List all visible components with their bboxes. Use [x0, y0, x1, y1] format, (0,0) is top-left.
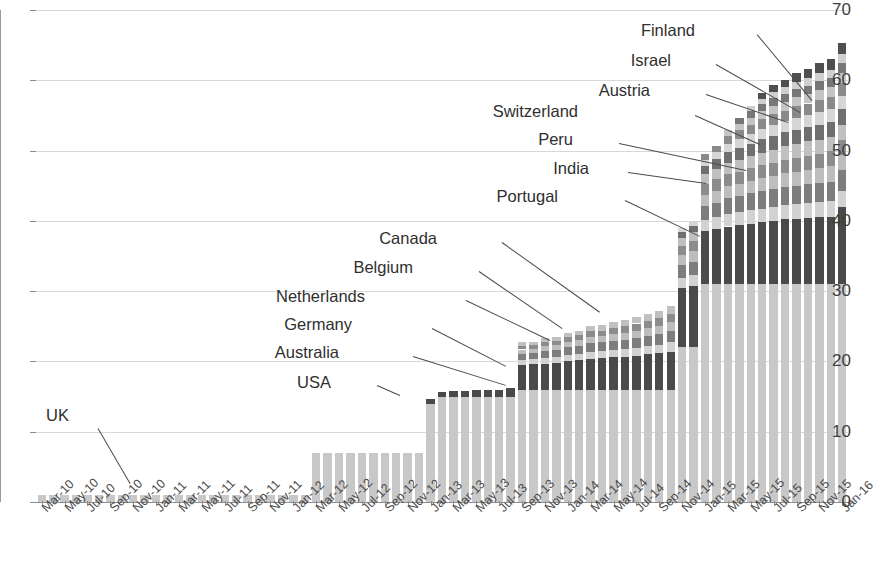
- y-tick-label: 70: [821, 0, 851, 20]
- bar-segment: [667, 352, 675, 390]
- bar-segment: [724, 144, 732, 152]
- y-tick-label: 20: [821, 351, 851, 371]
- bar-segment: [804, 218, 812, 284]
- bar-segment: [804, 115, 812, 127]
- bar-segment: [747, 156, 755, 168]
- bar-segment: [781, 80, 789, 88]
- bar-segment: [495, 390, 503, 397]
- callout-label: Finland: [641, 21, 695, 40]
- bar: [621, 320, 629, 502]
- bar-segment: [792, 219, 800, 284]
- bar-segment: [758, 93, 766, 99]
- bar-segment: [575, 360, 583, 390]
- bar-segment: [792, 130, 800, 145]
- bar-segment: [724, 198, 732, 213]
- bar: [632, 317, 640, 502]
- bar-segment: [838, 54, 846, 62]
- bar-segment: [758, 119, 766, 129]
- bar-segment: [792, 89, 800, 97]
- bar-segment: [552, 357, 560, 363]
- bar-segment: [598, 358, 606, 390]
- bar-segment: [529, 342, 537, 346]
- bar-segment: [769, 189, 777, 207]
- bar-segment: [804, 170, 812, 185]
- bar-segment: [712, 146, 720, 152]
- bar: [644, 314, 652, 502]
- bar-segment: [735, 118, 743, 124]
- bar-segment: [621, 333, 629, 340]
- bar: [655, 311, 663, 502]
- bar-segment: [758, 284, 766, 502]
- gridline: [36, 10, 848, 11]
- x-axis-labels: Mar-10May-10Jul-10Sep-10Nov-10Jan-11Mar-…: [36, 505, 848, 575]
- bar-segment: [781, 121, 789, 132]
- bar: [678, 228, 686, 502]
- bar-segment: [678, 288, 686, 348]
- bar: [575, 331, 583, 502]
- bar-segment: [827, 122, 835, 137]
- bar-segment: [552, 341, 560, 345]
- bar-segment: [598, 325, 606, 331]
- bar-segment: [701, 154, 709, 160]
- bar-segment: [529, 349, 537, 353]
- bar-segment: [701, 220, 709, 231]
- bar-segment: [815, 100, 823, 112]
- bar-segment: [781, 205, 789, 219]
- bar: [724, 130, 732, 502]
- bar-segment: [609, 328, 617, 334]
- bar-segment: [689, 221, 697, 226]
- bar-segment: [644, 336, 652, 346]
- bar-segment: [804, 141, 812, 155]
- bar-segment: [621, 340, 629, 349]
- y-tick-mark: [30, 10, 36, 11]
- bar-segment: [769, 85, 777, 92]
- bar-segment: [792, 144, 800, 157]
- bar-segment: [529, 390, 537, 502]
- bar-segment: [758, 191, 766, 209]
- bar-segment: [518, 360, 526, 365]
- bar-segment: [472, 390, 480, 396]
- bar-segment: [678, 238, 686, 246]
- bar-segment: [815, 125, 823, 140]
- bar-segment: [735, 225, 743, 284]
- callout-label: Israel: [631, 51, 671, 70]
- bar-segment: [747, 168, 755, 181]
- bar-segment: [769, 207, 777, 221]
- bar-segment: [621, 320, 629, 326]
- bar-segment: [769, 176, 777, 189]
- bar: [712, 146, 720, 502]
- bar-segment: [815, 284, 823, 502]
- bar-segment: [838, 43, 846, 54]
- bar-segment: [724, 152, 732, 163]
- bar-segment: [701, 206, 709, 220]
- bar-segment: [598, 336, 606, 342]
- bar-segment: [712, 169, 720, 180]
- bar-segment: [426, 399, 434, 403]
- bar-segment: [735, 172, 743, 184]
- bar-segment: [735, 124, 743, 130]
- bar-segment: [586, 343, 594, 351]
- callout-label: Australia: [275, 343, 339, 362]
- bar-segment: [769, 163, 777, 176]
- bar-segment: [781, 160, 789, 173]
- bar-segment: [552, 363, 560, 390]
- bar-segment: [564, 361, 572, 389]
- bar-segment: [758, 178, 766, 191]
- bar: [747, 106, 755, 502]
- bar-segment: [735, 212, 743, 225]
- bar-segment: [678, 265, 686, 278]
- bar-segment: [781, 284, 789, 502]
- bar: [701, 154, 709, 502]
- bar-segment: [769, 221, 777, 284]
- bar-segment: [758, 139, 766, 152]
- bar-segment: [655, 334, 663, 345]
- bar-segment: [598, 351, 606, 358]
- callout-label: Peru: [538, 130, 573, 149]
- bar-segment: [838, 284, 846, 502]
- bar-segment: [769, 106, 777, 114]
- y-tick-mark: [30, 502, 36, 503]
- bar-segment: [804, 156, 812, 170]
- bar-segment: [827, 166, 835, 181]
- bar-segment: [552, 350, 560, 357]
- bar-segment: [564, 337, 572, 342]
